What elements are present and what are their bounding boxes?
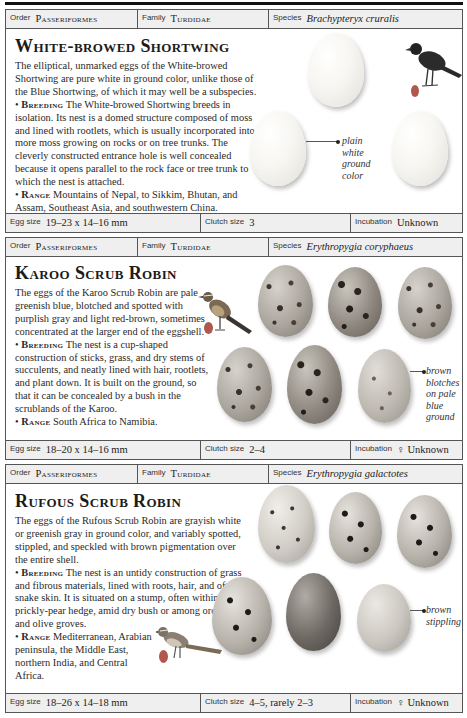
species-label: Species [273, 241, 301, 250]
clutch-size-cell: Clutch size 2–4 [201, 441, 351, 459]
clutch-size-value: 3 [249, 217, 254, 228]
breeding-label: Breeding [21, 567, 63, 578]
egg-annotation: plain white ground color [342, 135, 378, 181]
order-value: Passeriformes [35, 468, 97, 479]
breeding-label: Breeding [21, 99, 63, 110]
species-cell: Species Erythropygia galactotes [269, 465, 462, 483]
clutch-size-value: 2–4 [249, 444, 265, 455]
egg-size-cell: Egg size 19–23 x 14–16 mm [6, 214, 201, 232]
clutch-size-cell: Clutch size 3 [201, 214, 351, 232]
breeding-text: The White-browed Shortwing breeds in iso… [15, 99, 255, 187]
egg-size-cell: Egg size 18–26 x 14–18 mm [6, 694, 201, 712]
order-label: Order [10, 13, 30, 22]
egg-image [328, 267, 382, 337]
range-text-block: • Range Mediterranean, Arabian peninsula… [15, 631, 155, 683]
egg-facts-footer: Egg size 18–26 x 14–18 mm Clutch size 4–… [6, 693, 462, 712]
entry-title: White-browed Shortwing [15, 36, 229, 57]
range-label: Range [21, 631, 50, 642]
incubation-label: Incubation [355, 697, 392, 706]
egg-annotation: brown blotches on pale blue ground [426, 365, 464, 423]
species-value: Erythropygia coryphaeus [306, 241, 413, 252]
family-value: Turdidae [171, 468, 211, 479]
egg-image [258, 265, 313, 337]
order-cell: Order Passeriformes [6, 465, 138, 483]
egg-size-dot [159, 650, 168, 663]
egg-size-value: 18–20 x 14–16 mm [46, 444, 128, 455]
species-cell: Species Erythropygia coryphaeus [269, 238, 462, 256]
egg-size-dot [411, 85, 419, 97]
range-paragraph: • Range South Africa to Namibia. [15, 416, 211, 429]
egg-image [250, 111, 306, 186]
entry-body: Rufous Scrub Robin The eggs of the Rufou… [6, 484, 462, 693]
species-value: Erythropygia galactotes [306, 468, 407, 479]
incubation-value: ♀ Unknown [397, 697, 449, 708]
annotation-leader [410, 371, 424, 372]
order-value: Passeriformes [35, 241, 97, 252]
order-value: Passeriformes [35, 13, 97, 24]
taxonomy-header: Order Passeriformes Family Turdidae Spec… [6, 465, 462, 484]
family-cell: Family Turdidae [138, 10, 269, 28]
range-paragraph: • Range Mountains of Nepal, to Sikkim, B… [15, 189, 259, 215]
clutch-size-label: Clutch size [205, 697, 244, 706]
annotation-leader [306, 141, 338, 142]
species-value: Brachypteryx cruralis [306, 13, 398, 24]
order-label: Order [10, 241, 30, 250]
entry-body: White-browed Shortwing The elliptical, u… [6, 29, 462, 213]
egg-image [308, 33, 364, 107]
breeding-paragraph: • Breeding The nest is a cup-shaped cons… [15, 339, 211, 416]
incubation-label: Incubation [355, 444, 392, 453]
clutch-size-cell: Clutch size 4–5, rarely 2–3 [201, 694, 351, 712]
incubation-label: Incubation [355, 217, 392, 226]
top-rule [5, 2, 463, 5]
species-label: Species [273, 468, 301, 477]
egg-size-label: Egg size [10, 444, 41, 453]
egg-image [358, 349, 411, 423]
egg-size-dot [204, 322, 213, 334]
egg-image [287, 345, 342, 424]
clutch-size-value: 4–5, rarely 2–3 [249, 697, 313, 708]
egg-image [397, 495, 452, 568]
egg-size-cell: Egg size 18–20 x 14–16 mm [6, 441, 201, 459]
family-label: Family [142, 468, 166, 477]
entry-white-browed-shortwing: Order Passeriformes Family Turdidae Spec… [5, 9, 463, 233]
entry-title: Karoo Scrub Robin [15, 263, 177, 284]
incubation-cell: Incubation ♀ Unknown [351, 441, 462, 459]
order-cell: Order Passeriformes [6, 10, 138, 28]
egg-image [212, 577, 272, 655]
family-value: Turdidae [171, 241, 211, 252]
egg-size-value: 18–26 x 14–18 mm [46, 697, 128, 708]
description: The eggs of the Rufous Scrub Robin are g… [15, 515, 251, 567]
taxonomy-header: Order Passeriformes Family Turdidae Spec… [6, 238, 462, 257]
range-text: South Africa to Namibia. [53, 416, 157, 427]
range-label: Range [21, 189, 50, 200]
egg-image [258, 485, 315, 563]
family-label: Family [142, 241, 166, 250]
description: The eggs of the Karoo Scrub Robin are pa… [15, 287, 211, 339]
entry-rufous-scrub-robin: Order Passeriformes Family Turdidae Spec… [5, 464, 463, 713]
incubation-value: Unknown [397, 217, 438, 228]
egg-image [329, 492, 382, 564]
family-cell: Family Turdidae [138, 238, 269, 256]
family-label: Family [142, 13, 166, 22]
taxonomy-header: Order Passeriformes Family Turdidae Spec… [6, 10, 462, 29]
range-label: Range [21, 416, 50, 427]
entry-body: Karoo Scrub Robin The eggs of the Karoo … [6, 257, 462, 440]
egg-annotation: brown stippling [426, 604, 466, 627]
entry-text: The eggs of the Karoo Scrub Robin are pa… [15, 287, 211, 429]
range-paragraph: • Range Mediterranean, Arabian peninsula… [15, 631, 155, 683]
breeding-paragraph: • Breeding The White-browed Shortwing br… [15, 99, 259, 189]
egg-image [217, 347, 272, 422]
family-value: Turdidae [171, 13, 211, 24]
egg-size-label: Egg size [10, 697, 41, 706]
annotation-leader [410, 610, 424, 611]
family-cell: Family Turdidae [138, 465, 269, 483]
entry-text: The elliptical, unmarked eggs of the Whi… [15, 60, 259, 215]
breeding-label: Breeding [21, 339, 63, 350]
incubation-cell: Incubation ♀ Unknown [351, 694, 462, 712]
egg-image [398, 267, 452, 339]
egg-size-value: 19–23 x 14–16 mm [46, 217, 128, 228]
species-label: Species [273, 13, 301, 22]
clutch-size-label: Clutch size [205, 444, 244, 453]
order-cell: Order Passeriformes [6, 238, 138, 256]
egg-facts-footer: Egg size 18–20 x 14–16 mm Clutch size 2–… [6, 440, 462, 459]
